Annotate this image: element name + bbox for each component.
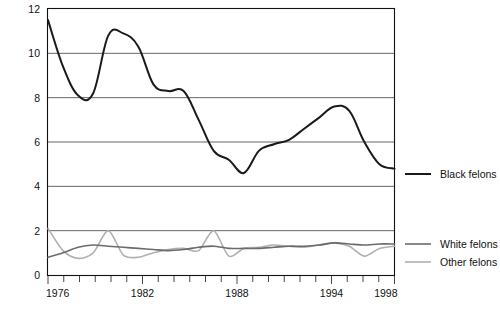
- y-axis-label-12: 12: [28, 3, 40, 15]
- line-chart: 121086420 19761982198819941998 Black fel…: [0, 0, 500, 318]
- legend-label: Other felons: [440, 256, 497, 268]
- legend-item-white-felons: White felons: [405, 238, 498, 250]
- x-axis-labels: 19761982198819941998: [46, 287, 398, 299]
- y-axis-label-4: 4: [34, 180, 40, 192]
- y-axis-labels: 121086420: [28, 3, 40, 281]
- x-axis-label-1994: 1994: [320, 287, 344, 299]
- y-axis-label-10: 10: [28, 47, 40, 59]
- chart-legend: Black felonsWhite felonsOther felons: [405, 168, 498, 268]
- legend-item-black-felons: Black felons: [405, 168, 497, 180]
- x-axis-label-1988: 1988: [225, 287, 249, 299]
- y-axis-label-2: 2: [34, 225, 40, 237]
- legend-item-other-felons: Other felons: [405, 256, 497, 268]
- x-axis-label-1998: 1998: [374, 287, 398, 299]
- data-series: [48, 20, 395, 258]
- chart-container: 121086420 19761982198819941998 Black fel…: [0, 0, 500, 318]
- y-axis-label-0: 0: [34, 269, 40, 281]
- legend-label: Black felons: [440, 168, 497, 180]
- x-axis-tickmarks: [48, 276, 395, 284]
- y-axis-label-8: 8: [34, 92, 40, 104]
- x-axis-label-1976: 1976: [46, 287, 70, 299]
- series-line-black-felons: [48, 20, 395, 173]
- x-axis-label-1982: 1982: [131, 287, 155, 299]
- gridlines: [48, 53, 395, 230]
- legend-label: White felons: [440, 238, 498, 250]
- y-axis-label-6: 6: [34, 136, 40, 148]
- series-line-white-felons: [48, 243, 395, 257]
